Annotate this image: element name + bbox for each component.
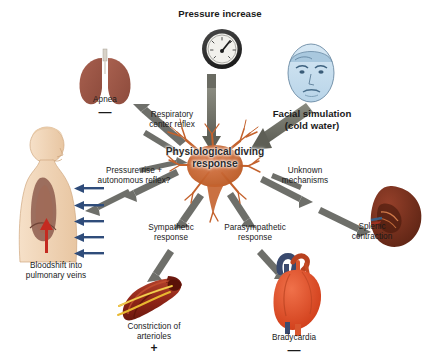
diagram-graphics	[0, 0, 440, 358]
connector-label-sympathetic-response: Sympathetic response	[132, 223, 210, 243]
face-icon	[288, 44, 334, 102]
torso-icon	[19, 127, 104, 262]
connector-label-respiratory-center-reflex: Respiratory center reflex	[133, 110, 211, 130]
arrow-into-torso	[85, 189, 131, 216]
external-pressure-arrows	[74, 184, 104, 258]
constriction-sign: +	[106, 342, 202, 354]
connector-label-pressure-rise: Pressure rise + autonomous reflex?	[86, 166, 182, 186]
apnea-sign: —	[75, 106, 135, 118]
connector-label-unknown-mechanisms: Unknown mechanisms	[269, 166, 341, 186]
bradycardia-sign: —	[246, 344, 342, 356]
connector-label-parasympathetic-response: Parasympathetic response	[209, 223, 301, 243]
node-label-pressure-increase: Pressure increase	[155, 8, 285, 20]
pressure-gauge-icon	[202, 29, 242, 69]
arteriole-icon	[118, 276, 182, 320]
diagram-canvas: Pressure increase Apnea — Facial simulat…	[0, 0, 440, 358]
node-label-bloodshift: Bloodshift into pulmonary veins	[0, 261, 112, 281]
node-label-constriction-of-arterioles: Constriction of arterioles	[106, 322, 202, 342]
heart-icon	[274, 256, 322, 336]
node-label-facial-simulation: Facial simulation (cold water)	[258, 108, 366, 131]
node-label-splenic-contraction: Splenic contraction	[332, 222, 412, 242]
